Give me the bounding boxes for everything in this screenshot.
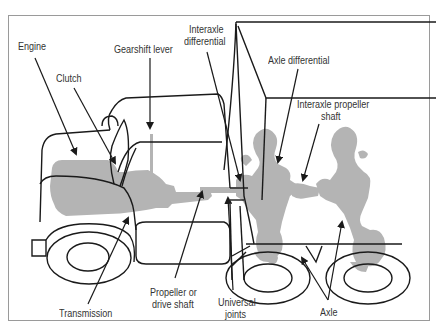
- leader-axle-2: [328, 222, 342, 300]
- forward-axle-assembly: [236, 129, 296, 259]
- leader-propeller: [175, 192, 202, 278]
- front-wheel-hub: [67, 243, 109, 271]
- leader-axle-1: [302, 258, 328, 300]
- leader-axle-diff: [278, 69, 298, 162]
- truck-drivetrain-illustration: [0, 0, 437, 334]
- sleeper-panel: [118, 142, 222, 172]
- leader-interaxle-prop: [303, 124, 319, 180]
- label-universal-joints-line1: Universal: [218, 297, 256, 308]
- leader-transmission: [88, 218, 128, 304]
- label-interaxle-propeller-shaft-line1: Interaxle propeller: [297, 99, 369, 110]
- gearshift-stick: [150, 134, 153, 174]
- leader-interaxle-diff: [207, 52, 240, 180]
- label-axle: Axle: [320, 307, 338, 318]
- label-interaxle-differential-line2: differential: [184, 36, 226, 47]
- rear-wheel-2-hub: [344, 264, 392, 292]
- bumper: [32, 240, 46, 256]
- rear-axle-assembly: [316, 127, 386, 267]
- label-interaxle-propeller-shaft-line2: shaft: [321, 111, 341, 122]
- interaxle-shaft: [292, 183, 320, 198]
- fuel-tank: [136, 222, 230, 264]
- label-interaxle-differential-line1: Interaxle: [189, 24, 224, 35]
- label-transmission: Transmission: [59, 308, 112, 319]
- label-axle-differential: Axle differential: [268, 55, 330, 66]
- label-propeller-line1: Propeller or: [150, 287, 197, 298]
- drivetrain-components: [50, 127, 386, 272]
- label-clutch: Clutch: [56, 73, 82, 84]
- engine-block: [50, 160, 212, 216]
- label-engine: Engine: [18, 41, 46, 52]
- label-gearshift-lever: Gearshift lever: [114, 44, 173, 55]
- mirror: [102, 116, 118, 126]
- rear-wheel-1-hub: [244, 264, 292, 292]
- label-universal-joints-line2: joints: [225, 309, 246, 320]
- label-propeller-line2: drive shaft: [152, 299, 194, 310]
